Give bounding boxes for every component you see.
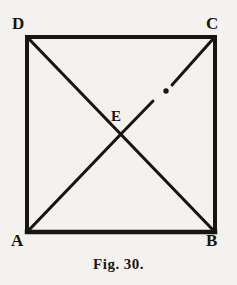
vertex-label-B: B [206,232,217,249]
figure-container: D C A B E Fig.30. [0,0,237,285]
geometry-diagram [0,0,237,285]
figure-caption: Fig.30. [0,256,237,273]
vertex-label-D: D [12,15,24,32]
caption-number: 30 [124,256,140,272]
diagonal-segment-dot-C [172,39,213,85]
vertex-label-C: C [206,15,218,32]
caption-terminator: . [140,256,144,272]
caption-prefix: Fig. [93,256,120,272]
midpoint-dot-icon [163,88,168,93]
vertex-label-E: E [111,109,121,124]
vertex-label-A: A [11,232,23,249]
diagonal-segment-A-E [29,134,121,230]
diagonal-segment-E-dash [121,101,153,134]
